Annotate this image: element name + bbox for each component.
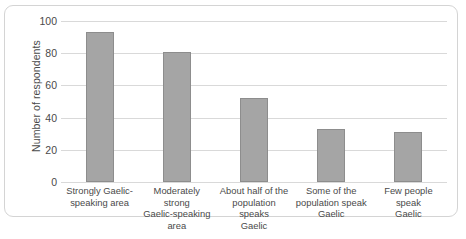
y-axis-tick-label: 20: [17, 145, 57, 155]
x-axis-category-label-line: Some of the: [295, 185, 368, 197]
y-axis-tick-label: 0: [17, 177, 57, 187]
plot-area: [61, 21, 447, 182]
x-axis-category-label: Strongly Gaelic-speaking area: [63, 185, 136, 208]
y-axis-tick-label: 80: [17, 48, 57, 58]
x-axis-category-label: About half of thepopulation speaksGaelic: [217, 185, 290, 231]
x-axis-category-label-line: Strongly Gaelic-: [63, 185, 136, 197]
x-axis-category-label: Few people speakGaelic: [372, 185, 445, 220]
x-axis-category-label-line: Gaelic: [295, 208, 368, 220]
bar[interactable]: [86, 32, 114, 182]
y-axis-tick-label: 60: [17, 80, 57, 90]
x-axis-category-label: Some of thepopulation speakGaelic: [295, 185, 368, 220]
x-axis-category-label: Moderately strongGaelic-speaking area: [140, 185, 213, 231]
caption-remnant: [64, 227, 454, 235]
y-axis-tick-labels: 020406080100: [13, 21, 57, 182]
x-axis-category-label-line: About half of the: [217, 185, 290, 197]
bar[interactable]: [317, 129, 345, 182]
y-axis-tick-label: 100: [17, 16, 57, 26]
x-axis-category-labels: Strongly Gaelic-speaking areaModerately …: [61, 185, 447, 221]
chart-frame: Number of respondents 020406080100 Stron…: [4, 5, 458, 217]
x-axis-category-label-line: speaking area: [63, 197, 136, 209]
x-axis-category-label-line: Moderately strong: [140, 185, 213, 208]
gridline: [61, 85, 447, 86]
x-axis-category-label-line: population speaks: [217, 197, 290, 220]
bar[interactable]: [163, 52, 191, 182]
gridline: [61, 21, 447, 22]
gridline: [61, 53, 447, 54]
bar[interactable]: [394, 132, 422, 182]
y-axis-tick-label: 40: [17, 113, 57, 123]
bar[interactable]: [240, 98, 268, 182]
x-axis-category-label-line: population speak: [295, 197, 368, 209]
x-axis-category-label-line: Gaelic: [372, 208, 445, 220]
gridline: [61, 182, 447, 183]
chart-figure: Number of respondents 020406080100 Stron…: [0, 0, 466, 239]
x-axis-category-label-line: Few people speak: [372, 185, 445, 208]
